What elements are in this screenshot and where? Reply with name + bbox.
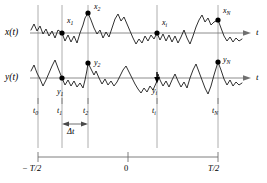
time-tick-label-tN-sub: N [214, 110, 218, 116]
sample-label-yi: yi [152, 87, 157, 96]
delta-t-arrow [62, 122, 88, 127]
sample-marker-y1 [59, 75, 64, 80]
sample-label-xN-sub: N [227, 10, 231, 16]
time-tick-label-ti-sub: i [154, 110, 156, 116]
time-tick-label-t0-sub: 0 [35, 110, 38, 116]
sample-label-y2-sub: 2 [98, 62, 101, 68]
y-axis-time-label: t [256, 73, 259, 82]
sample-marker-y2 [85, 60, 90, 65]
time-tick-label-t1: t1 [57, 107, 62, 116]
sample-label-y2: y2 [94, 59, 100, 68]
scale-label-right: T/2 [208, 164, 219, 173]
sample-label-xi-sub: i [166, 22, 168, 28]
time-tick-label-tN: tN [212, 107, 218, 116]
sample-label-xi: xi [162, 19, 167, 28]
sample-label-yi-sub: i [156, 90, 158, 96]
sample-label-yN: yN [223, 56, 230, 65]
time-tick-label-t2-sub: 2 [85, 110, 88, 116]
y-signal-label: y(t) [5, 73, 18, 83]
scale-label-center: 0 [124, 164, 128, 173]
x-axis-time-label: t [256, 28, 259, 37]
sample-label-y1-sub: 1 [61, 91, 64, 97]
y-sample-markers [59, 59, 220, 80]
sample-label-x2: x2 [94, 3, 100, 12]
time-tick-label-t2: t2 [83, 107, 88, 116]
sample-label-xN: xN [223, 7, 230, 16]
sample-label-x2-sub: 2 [98, 6, 101, 12]
figure-canvas [0, 0, 267, 183]
x-signal-label: x(t) [5, 28, 18, 38]
time-tick-label-t1-sub: 1 [59, 110, 62, 116]
sample-label-x1-sub: 1 [71, 20, 74, 26]
sample-marker-xN [215, 17, 220, 22]
x-signal-waveform [31, 13, 242, 44]
sample-marker-yN [215, 59, 220, 64]
delta-t-label: Δt [67, 127, 74, 136]
time-series-sampling-figure: x(t) y(t) t t x1 x2 xi xN y1 y2 yi yN t0… [0, 0, 267, 183]
time-tick-marks [38, 98, 218, 104]
sample-marker-x2 [85, 10, 90, 15]
time-tick-label-ti: ti [152, 107, 156, 116]
sample-label-y1: y1 [57, 88, 63, 97]
sample-label-x1: x1 [67, 17, 73, 26]
scale-label-left: − T/2 [22, 164, 41, 173]
scale-axis [38, 152, 218, 162]
yi-pointer-arrow [154, 72, 160, 84]
sample-marker-x1 [59, 30, 64, 35]
sample-marker-xi [154, 30, 159, 35]
time-tick-label-t0: t0 [33, 107, 38, 116]
sample-label-yN-sub: N [227, 59, 231, 65]
